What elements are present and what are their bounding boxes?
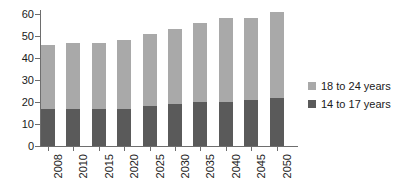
- x-axis-tick-label: 2015: [104, 154, 115, 178]
- bar-group[interactable]: [193, 23, 207, 146]
- x-axis-tick-label: 2030: [180, 154, 191, 178]
- legend-swatch-18-to-24-icon: [308, 82, 316, 90]
- x-axis-tick: [48, 147, 49, 151]
- bar-group[interactable]: [41, 45, 55, 146]
- bar-segment-14-to-17[interactable]: [117, 109, 131, 146]
- x-axis-tick: [124, 147, 125, 151]
- bar-group[interactable]: [92, 43, 106, 146]
- bar-segment-14-to-17[interactable]: [143, 106, 157, 146]
- bar-segment-18-to-24[interactable]: [270, 12, 284, 98]
- bar-segment-14-to-17[interactable]: [270, 98, 284, 146]
- x-axis-tick-label: 2050: [282, 154, 293, 178]
- x-axis-tick: [277, 147, 278, 151]
- x-axis-tick: [150, 147, 151, 151]
- bar-segment-18-to-24[interactable]: [41, 45, 55, 109]
- x-axis-tick: [251, 147, 252, 151]
- x-axis-tick: [200, 147, 201, 151]
- legend-label-14-to-17: 14 to 17 years: [321, 99, 391, 110]
- bar-segment-14-to-17[interactable]: [193, 102, 207, 146]
- bar-segment-14-to-17[interactable]: [219, 102, 233, 146]
- bar-segment-18-to-24[interactable]: [219, 18, 233, 102]
- bar-segment-18-to-24[interactable]: [168, 29, 182, 104]
- x-axis-tick-label: 2025: [155, 154, 166, 178]
- bar-segment-14-to-17[interactable]: [244, 100, 258, 146]
- chart-legend: 18 to 24 years 14 to 17 years: [308, 78, 391, 114]
- bar-group[interactable]: [66, 43, 80, 146]
- x-axis-tick: [99, 147, 100, 151]
- bar-segment-14-to-17[interactable]: [168, 104, 182, 146]
- bar-segment-14-to-17[interactable]: [41, 109, 55, 146]
- bar-segment-18-to-24[interactable]: [193, 23, 207, 102]
- bar-group[interactable]: [244, 18, 258, 146]
- bar-segment-18-to-24[interactable]: [117, 40, 131, 108]
- legend-label-18-to-24: 18 to 24 years: [321, 81, 391, 92]
- x-axis-tick: [73, 147, 74, 151]
- legend-swatch-14-to-17-icon: [308, 100, 316, 108]
- x-axis-tick-label: 2020: [129, 154, 140, 178]
- legend-item-18-to-24[interactable]: 18 to 24 years: [308, 78, 391, 94]
- bar-group[interactable]: [117, 40, 131, 146]
- bar-group[interactable]: [219, 18, 233, 146]
- x-axis-tick-label: 2010: [78, 154, 89, 178]
- x-axis-tick-label: 2040: [231, 154, 242, 178]
- x-axis-tick-label: 2008: [53, 154, 64, 178]
- bar-segment-14-to-17[interactable]: [66, 109, 80, 146]
- bar-segment-18-to-24[interactable]: [143, 34, 157, 107]
- bar-segment-18-to-24[interactable]: [244, 18, 258, 99]
- bar-segment-18-to-24[interactable]: [66, 43, 80, 109]
- stacked-bar-chart: 0102030405060 20082010201520202025203020…: [0, 0, 404, 194]
- legend-item-14-to-17[interactable]: 14 to 17 years: [308, 96, 391, 112]
- bar-group[interactable]: [270, 12, 284, 146]
- bar-group[interactable]: [143, 34, 157, 146]
- x-axis-tick-label: 2045: [256, 154, 267, 178]
- bar-group[interactable]: [168, 29, 182, 146]
- x-axis-tick: [226, 147, 227, 151]
- bar-segment-18-to-24[interactable]: [92, 43, 106, 109]
- x-axis-tick-label: 2035: [205, 154, 216, 178]
- x-axis-tick: [175, 147, 176, 151]
- bar-segment-14-to-17[interactable]: [92, 109, 106, 146]
